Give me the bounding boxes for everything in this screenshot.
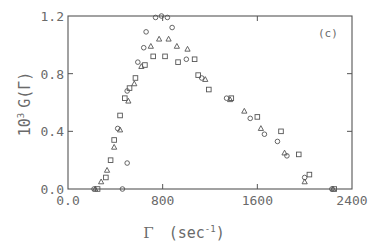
triangle-marker [132,81,137,86]
x-tick-label: 1600 [242,193,273,208]
y-tick-label: 0.4 [41,124,65,139]
square-marker [112,138,117,143]
square-marker [163,54,168,59]
triangle-marker [104,167,109,172]
triangle-marker [148,43,153,48]
square-marker [133,76,138,81]
square-marker [296,152,301,157]
triangle-marker [99,179,104,184]
square-marker [176,60,181,65]
triangle-marker [282,150,287,155]
square-marker [118,113,123,118]
circle-marker [248,116,253,121]
y-axis-base: 10 [16,118,34,136]
y-tick-label: 1.2 [41,9,64,24]
square-marker [255,115,260,120]
square-marker [151,54,156,59]
circle-marker [125,161,130,166]
x-axis-unit-sup: -1 [205,224,216,234]
y-axis-rest: G(Γ) [16,72,34,108]
y-axis-sup: 3 [16,113,26,118]
circle-marker [184,57,189,62]
x-tick-label: 800 [151,193,174,208]
triangle-marker [166,36,171,41]
circle-marker [144,30,149,35]
circle-marker [170,25,175,30]
circle-marker [275,139,280,144]
x-axis-unit-open: (sec [169,224,205,242]
plot-frame [68,16,352,189]
x-axis-symbol: Γ [143,224,153,242]
scatter-chart: 0.0800160024000.00.40.81.2 (c) Γ (sec-1)… [0,0,372,251]
triangle-marker [258,126,263,131]
circle-marker [141,45,146,50]
triangle-marker [112,144,117,149]
y-axis-label: 103G(Γ) [16,72,34,137]
data-markers [92,14,337,192]
square-marker [279,129,284,134]
x-tick-label: 2400 [336,193,367,208]
square-marker [123,96,128,101]
circle-marker [262,132,267,137]
triangle-marker [185,46,190,51]
triangle-marker [302,179,307,184]
x-axis-label: Γ (sec-1) [143,224,224,242]
square-marker [192,57,197,62]
square-marker [207,87,212,92]
y-tick-label: 0.8 [41,67,64,82]
square-marker [307,172,312,177]
y-tick-label: 0.0 [41,182,64,197]
triangle-marker [174,43,179,48]
x-axis-unit-close: ) [216,224,225,242]
square-marker [104,175,109,180]
square-marker [108,158,113,163]
circle-marker [136,60,141,65]
panel-label: (c) [318,27,338,40]
triangle-marker [242,108,247,113]
triangle-marker [157,36,162,41]
